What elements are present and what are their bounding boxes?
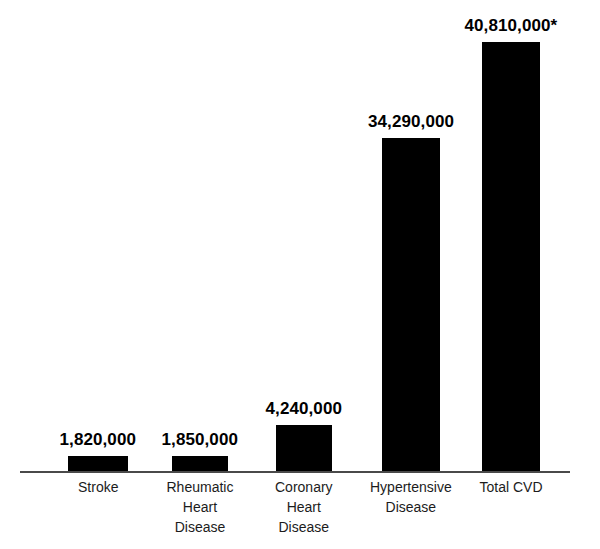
- category-label: Rheumatic Heart Disease: [167, 477, 234, 537]
- plot-area: 1,820,000Stroke1,850,000Rheumatic Heart …: [0, 0, 600, 549]
- category-label: Stroke: [78, 477, 118, 497]
- bar-value-label: 34,290,000: [368, 112, 454, 132]
- category-label: Total CVD: [480, 477, 543, 497]
- bar: [68, 456, 128, 472]
- bar: [172, 456, 228, 472]
- bar-value-label: 4,240,000: [266, 399, 343, 419]
- bar-value-label: 40,810,000*: [465, 16, 558, 36]
- bar: [382, 138, 440, 472]
- category-label: Hypertensive Disease: [370, 477, 452, 517]
- x-axis-line: [20, 471, 570, 473]
- bar-value-label: 1,820,000: [60, 430, 137, 450]
- bar: [276, 425, 332, 472]
- bar-value-label: 1,850,000: [162, 430, 239, 450]
- bar-chart: 1,820,000Stroke1,850,000Rheumatic Heart …: [0, 0, 600, 549]
- category-label: Coronary Heart Disease: [275, 477, 333, 537]
- bar: [482, 42, 540, 472]
